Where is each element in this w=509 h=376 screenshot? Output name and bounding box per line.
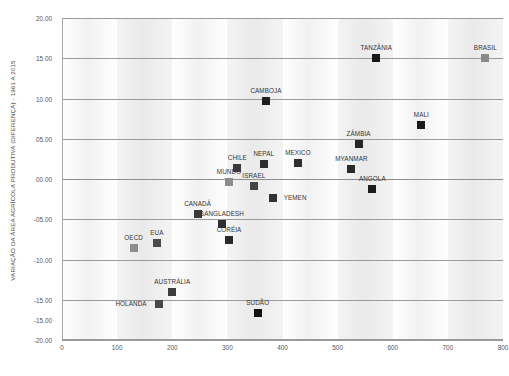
data-point-label: AUSTRÁLIA [154, 278, 190, 285]
data-point-label: MEXICO [285, 149, 310, 156]
data-point-marker[interactable] [481, 54, 489, 62]
data-point-label: CHILE [228, 154, 247, 161]
y-tick-label: -20.00 [16, 337, 52, 344]
data-point-label: EUA [150, 229, 163, 236]
y-axis-line [62, 18, 63, 340]
x-tick-label: 100 [112, 344, 123, 351]
x-axis-line [62, 339, 503, 340]
data-point-marker[interactable] [417, 121, 425, 129]
data-point-label: OECD [124, 234, 143, 241]
data-point-marker[interactable] [250, 182, 258, 190]
y-tick-label: -15.00 [16, 296, 52, 303]
data-point-marker[interactable] [294, 159, 302, 167]
data-point-marker[interactable] [269, 194, 277, 202]
y-tick-label: 10.00 [16, 95, 52, 102]
scatter-chart: VARIAÇÃO DA ÁREA AGRÍCOLA PRODUTIVA (DIF… [0, 0, 509, 376]
data-point-label: ANGOLA [359, 175, 386, 182]
data-point-marker[interactable] [168, 288, 176, 296]
data-point-label: ZÂMBIA [347, 130, 371, 137]
data-point-marker[interactable] [225, 236, 233, 244]
y-tick-label: 15.00 [16, 55, 52, 62]
data-point-marker[interactable] [233, 164, 241, 172]
data-point-label: BRASIL [474, 44, 497, 51]
y-tick-label: -10.00 [16, 256, 52, 263]
data-point-marker[interactable] [372, 54, 380, 62]
y-tick-label: 20.00 [16, 15, 52, 22]
y-tick-label: 00.00 [16, 176, 52, 183]
data-point-label: HOLANDA [115, 300, 146, 307]
x-tick-label: 800 [498, 344, 509, 351]
data-point-label: CORÉIA [217, 226, 242, 233]
gridline [62, 139, 503, 140]
data-point-label: MYANMAR [335, 155, 367, 162]
data-point-label: MALI [414, 111, 429, 118]
gridline [62, 58, 503, 59]
plot-area: OECDEUAHOLANDAAUSTRÁLIACANADÁBANGLADESHM… [62, 18, 503, 340]
data-point-label: CAMBOJA [250, 87, 281, 94]
gridline [62, 340, 503, 341]
x-tick-label: 500 [332, 344, 343, 351]
data-point-marker[interactable] [130, 244, 138, 252]
data-point-label: ISRAEL [242, 172, 265, 179]
gridline [62, 179, 503, 180]
data-point-label: SUDÃO [246, 299, 269, 306]
gridline [62, 219, 503, 220]
y-tick-label: -05.00 [16, 216, 52, 223]
x-tick-label: 700 [443, 344, 454, 351]
y-tick-label: -15.00 [16, 316, 52, 323]
data-point-marker[interactable] [254, 309, 262, 317]
data-point-label: BANGLADESH [200, 210, 244, 217]
data-point-label: CANADÁ [184, 200, 211, 207]
data-point-label: YEMEN [284, 194, 307, 201]
gridline [62, 99, 503, 100]
data-point-label: NEPAL [253, 150, 274, 157]
x-tick-label: 600 [387, 344, 398, 351]
x-tick-label: 200 [167, 344, 178, 351]
data-point-marker[interactable] [260, 160, 268, 168]
gridline [62, 260, 503, 261]
y-axis-tick-labels: 20.0015.0010.0005.0000.00-05.00-10.00-15… [0, 18, 58, 340]
data-point-marker[interactable] [155, 300, 163, 308]
data-point-label: TANZÂNIA [360, 44, 391, 51]
data-point-marker[interactable] [368, 185, 376, 193]
data-point-marker[interactable] [262, 97, 270, 105]
y-tick-label: 05.00 [16, 135, 52, 142]
x-tick-label: 0 [60, 344, 64, 351]
x-tick-label: 400 [277, 344, 288, 351]
data-point-marker[interactable] [347, 165, 355, 173]
data-point-marker[interactable] [225, 178, 233, 186]
data-point-marker[interactable] [355, 140, 363, 148]
gridline [62, 18, 503, 19]
data-point-marker[interactable] [153, 239, 161, 247]
x-tick-label: 300 [222, 344, 233, 351]
x-axis-tick-labels: 0100200300400500600700800 [62, 344, 503, 360]
